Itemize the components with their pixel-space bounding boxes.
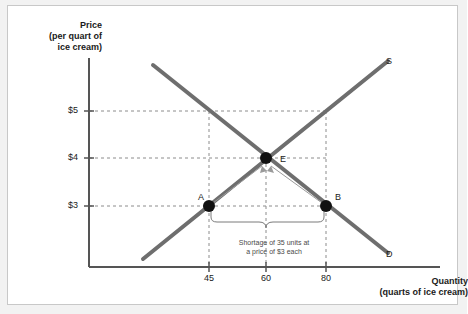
y-tick-label-3: $3 [52,200,78,210]
shortage-brace [211,211,324,228]
data-point-a[interactable] [203,200,215,212]
convergence-arrows [213,166,322,203]
y-axis-title-sub-1: (per quart of [49,31,102,41]
arrow-b-to-e [271,166,322,203]
figure-card: Price (per quart of ice cream) Quantity … [7,5,458,305]
data-point-b[interactable] [320,200,332,212]
arrow-a-to-e [213,166,262,203]
shortage-annotation-line-2: a price of $3 each [208,247,340,256]
shortage-annotation: Shortage of 35 units at a price of $3 ea… [208,238,340,256]
x-tick-label-60: 60 [253,273,279,283]
point-label-e: E [280,154,286,164]
y-tick-label-5: $5 [52,105,78,115]
y-axis-title-sub-2: ice cream) [57,42,102,52]
data-point-e[interactable] [260,152,272,164]
x-axis-title: Quantity (quarts of ice cream) [338,276,468,298]
curve-label-demand: D [386,249,393,259]
point-label-a: A [198,192,204,202]
x-axis-title-sub: (quarts of ice cream) [379,287,468,297]
curve-label-supply: S [386,56,392,66]
y-tick-label-4: $4 [52,152,78,162]
point-label-b: B [335,192,341,202]
y-axis-title: Price (per quart of ice cream) [22,20,102,53]
guide-lines-horizontal [89,111,327,206]
x-tick-label-45: 45 [196,273,222,283]
x-axis-title-main: Quantity [431,276,468,286]
x-tick-label-80: 80 [313,273,339,283]
shortage-annotation-line-1: Shortage of 35 units at [208,238,340,247]
y-axis-title-main: Price [80,20,102,30]
